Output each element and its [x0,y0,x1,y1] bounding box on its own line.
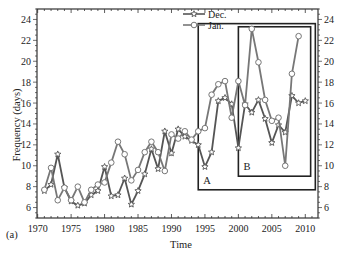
circle-marker [108,160,114,166]
y-tick-label-left: 6 [26,202,31,213]
star-marker [155,166,161,172]
y-tick-label-left: 10 [21,160,31,171]
y-tick-label-left: 18 [21,77,31,88]
y-tick-label-right: 16 [324,98,334,109]
x-tick-label: 1970 [28,223,48,234]
circle-marker [195,128,201,134]
star-marker [302,98,308,104]
circle-marker [162,168,168,174]
circle-marker [142,149,148,155]
y-tick-label-left: 20 [21,56,31,67]
circle-marker [169,132,175,138]
circle-marker [242,102,248,108]
x-axis-title: Time [170,239,192,250]
x-tick-label: 1990 [161,223,181,234]
y-tick-label-right: 24 [324,14,334,25]
circle-marker [229,115,235,121]
y-tick-label-right: 22 [324,35,334,46]
circle-marker [135,167,141,173]
box-outline [198,24,315,190]
circle-marker [155,149,161,155]
circle-marker [289,71,295,77]
star-marker [215,98,221,104]
y-tick-label-left: 22 [21,35,31,46]
x-tick-label: 2000 [228,223,248,234]
circle-marker [122,151,128,157]
y-tick-label-right: 12 [324,139,334,150]
circle-marker [95,182,101,188]
y-tick-label-right: 14 [324,118,334,129]
star-marker [128,201,134,207]
y-tick-label-left: 14 [21,118,31,129]
circle-marker [296,33,302,39]
y-tick-label-right: 10 [324,160,334,171]
legend-label: Jan. [208,20,224,31]
circle-marker [256,59,262,65]
star-marker [262,115,268,121]
y-tick-label-left: 8 [26,181,31,192]
x-tick-label: 1985 [128,223,148,234]
series-layer [41,26,308,208]
circle-marker [102,180,108,186]
series-jan [42,26,302,205]
circle-marker [48,165,54,171]
y-tick-label-right: 20 [324,56,334,67]
star-marker [235,145,241,151]
circle-marker [236,78,242,84]
y-tick-label-left: 16 [21,98,31,109]
circle-marker [42,187,48,193]
circle-marker [149,139,155,145]
star-marker [142,171,148,177]
star-marker [202,163,208,169]
circle-marker [189,137,195,143]
circle-marker [55,197,61,203]
line-chart: AB 1970197519801985199019952000200520106… [0,0,353,264]
legend-item-jan: Jan. [183,20,224,31]
y-tick-label-left: 12 [21,139,31,150]
circle-marker [68,197,74,203]
x-tick-label: 2010 [295,223,315,234]
circle-marker [75,184,81,190]
star-marker [135,188,141,194]
circle-marker [216,81,222,87]
circle-marker [262,97,268,103]
circle-marker [202,125,208,131]
circle-marker [209,92,215,98]
circle-marker [249,26,255,32]
panel-label: (a) [6,229,18,241]
box-label: B [243,161,250,172]
circle-marker [269,118,275,124]
circle-marker [88,187,94,193]
circle-marker [62,185,68,191]
annotation-boxes: AB [198,24,315,190]
box-label: A [203,175,211,186]
x-tick-label: 2005 [262,223,282,234]
annotation-box-a: A [198,24,315,190]
circle-marker [282,163,288,169]
star-marker [122,175,128,181]
star-marker [101,163,107,169]
legend-circle-icon [191,22,197,28]
star-marker [108,193,114,199]
x-tick-label: 1975 [61,223,81,234]
legend-label: Dec. [208,9,227,20]
circle-marker [175,136,181,142]
star-marker [115,192,121,198]
circle-marker [129,178,135,184]
y-axis-title: Frequency (days) [11,88,23,162]
legend-star-icon [191,11,197,17]
star-marker [269,139,275,145]
y-tick-label-right: 6 [324,202,329,213]
circle-marker [222,78,228,84]
y-tick-label-left: 24 [21,14,31,25]
circle-marker [276,115,282,121]
x-tick-label: 1995 [195,223,215,234]
y-tick-label-right: 18 [324,77,334,88]
circle-marker [82,200,88,206]
circle-marker [115,139,121,145]
circle-marker [182,128,188,134]
star-marker [208,149,214,155]
x-tick-label: 1980 [95,223,115,234]
star-marker [162,128,168,134]
star-marker [255,97,261,103]
